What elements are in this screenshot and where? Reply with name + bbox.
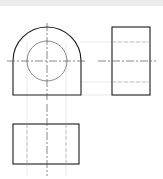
side-view [98,27,156,95]
technical-drawing [0,0,163,179]
front-view [7,23,86,100]
top-view [13,104,79,176]
projection-lines [27,42,150,176]
top-outline [13,124,79,164]
